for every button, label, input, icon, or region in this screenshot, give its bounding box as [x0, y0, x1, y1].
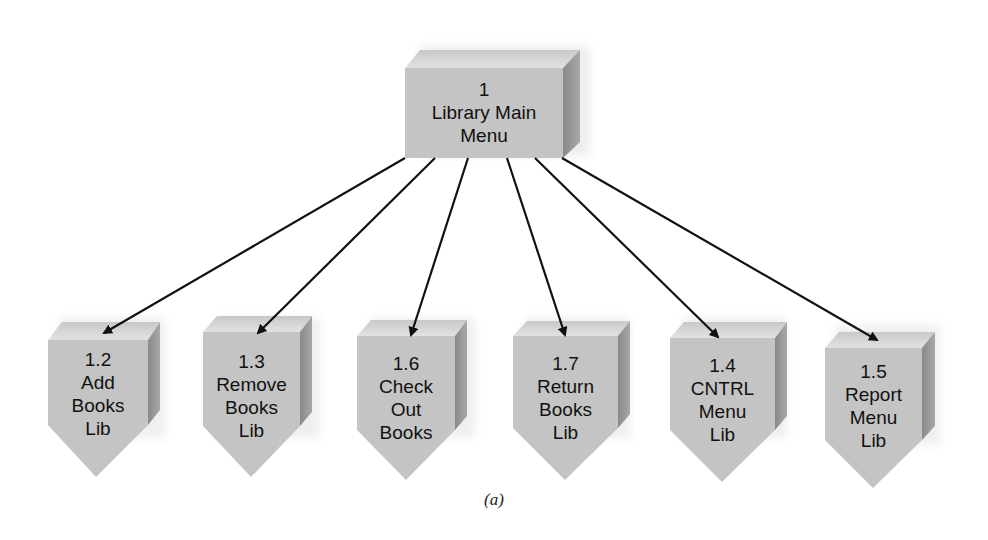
node-label-line: 1.3: [203, 350, 300, 373]
node-label-line: 1.5: [825, 360, 922, 383]
arrow-1-to-1-4: [535, 158, 718, 337]
node-1-7-label: 1.7 Return Books Lib: [513, 352, 618, 444]
node-label-line: Out: [357, 398, 455, 421]
node-label-line: Books: [48, 394, 148, 417]
node-label-line: 1.7: [513, 352, 618, 375]
node-label-line: Lib: [48, 417, 148, 440]
node-label-line: Lib: [670, 423, 775, 446]
node-label-line: Menu: [670, 400, 775, 423]
node-label-line: Report: [825, 383, 922, 406]
arrow-1-to-1-2: [104, 158, 405, 333]
arrow-1-to-1-6: [411, 158, 468, 335]
node-label-line: Lib: [825, 429, 922, 452]
node-label-line: 1.4: [670, 354, 775, 377]
arrow-1-to-1-5: [562, 158, 877, 340]
node-label-line: Return: [513, 375, 618, 398]
node-label-line: Menu: [825, 406, 922, 429]
node-1-3-label: 1.3 Remove Books Lib: [203, 350, 300, 442]
node-label-line: Books: [357, 421, 455, 444]
node-label-line: 1.2: [48, 348, 148, 371]
arrow-1-to-1-3: [258, 158, 435, 333]
node-label-line: Books: [513, 398, 618, 421]
arrow-1-to-1-7: [507, 158, 565, 335]
node-label-line: CNTRL: [670, 377, 775, 400]
node-label-line: 1.6: [357, 352, 455, 375]
node-label-line: Remove: [203, 373, 300, 396]
root-label: 1 Library Main Menu: [405, 78, 563, 147]
caption-text: (a): [484, 490, 504, 509]
root-label-line: 1: [405, 78, 563, 101]
edges: [104, 158, 877, 340]
node-label-line: Add: [48, 371, 148, 394]
node-label-line: Check: [357, 375, 455, 398]
node-label-line: Lib: [513, 421, 618, 444]
root-label-line: Menu: [405, 124, 563, 147]
node-1-2-label: 1.2 Add Books Lib: [48, 348, 148, 440]
node-1-5-label: 1.5 Report Menu Lib: [825, 360, 922, 452]
node-label-line: Books: [203, 396, 300, 419]
figure-caption: (a): [464, 490, 524, 510]
node-1-6-label: 1.6 Check Out Books: [357, 352, 455, 444]
node-1-4-label: 1.4 CNTRL Menu Lib: [670, 354, 775, 446]
node-label-line: Lib: [203, 419, 300, 442]
root-label-line: Library Main: [405, 101, 563, 124]
